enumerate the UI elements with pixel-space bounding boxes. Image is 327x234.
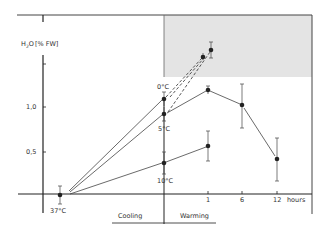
line-5c-recovery-a xyxy=(167,91,206,113)
line-10c-cool xyxy=(70,163,162,194)
x-tick-label-12: 12 xyxy=(273,196,281,204)
label-0c: 0°C xyxy=(157,83,169,91)
line-0c-cool xyxy=(69,100,162,191)
line-5c-recovery-c xyxy=(244,108,275,156)
x-tick-label-1: 1 xyxy=(206,196,210,204)
label-37c: 37°C xyxy=(50,207,67,215)
line-10c-warm xyxy=(166,147,206,162)
label-10c: 10°C xyxy=(157,177,174,185)
x-tick-label-6: 6 xyxy=(240,196,244,204)
shaded-region xyxy=(164,15,312,77)
x-axis-unit: hours xyxy=(287,196,306,204)
line-5c-cool xyxy=(70,115,162,192)
phase-label-warming: Warming xyxy=(180,212,209,220)
line-5c-recovery-b xyxy=(210,91,240,104)
label-5c: 5°C xyxy=(158,125,170,133)
y-tick-label-0.5: 0,5 xyxy=(26,148,36,156)
y-tick-label-1.0: 1,0 xyxy=(26,103,36,111)
y-axis-label: H2O[% FW] xyxy=(21,40,58,49)
phase-label-cooling: Cooling xyxy=(118,212,142,220)
chart: H2O[% FW] 1,0 0,5 1 6 12 hours 37°C 0°C … xyxy=(0,0,327,234)
